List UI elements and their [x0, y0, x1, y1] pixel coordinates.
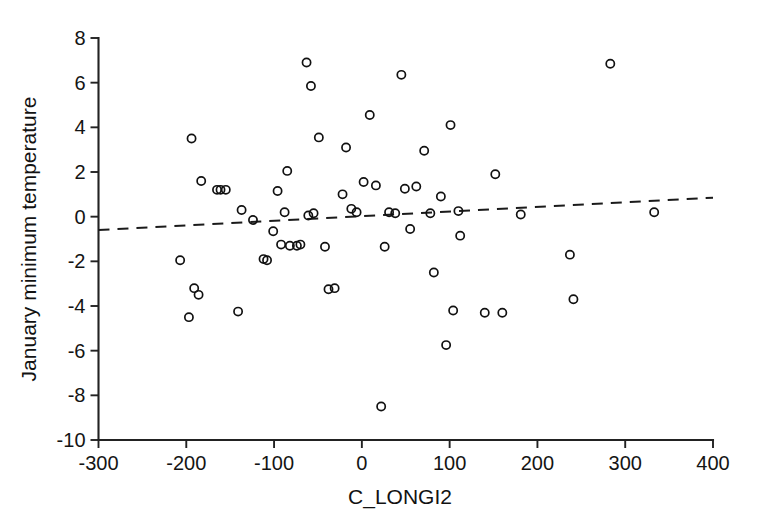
y-tick-label: -6	[68, 340, 86, 362]
data-point-marker	[222, 186, 230, 194]
scatter-plot-figure: -300-200-1000100200300400 -10-8-6-4-2024…	[0, 0, 762, 529]
data-points	[176, 58, 658, 410]
x-tick-label: 300	[609, 452, 642, 474]
data-point-marker	[650, 208, 658, 216]
data-point-marker	[420, 147, 428, 155]
y-tick-label: 8	[74, 27, 85, 49]
y-tick-label: -2	[68, 250, 86, 272]
x-tick-label: -100	[254, 452, 294, 474]
data-point-marker	[237, 206, 245, 214]
data-point-marker	[456, 232, 464, 240]
data-point-marker	[498, 309, 506, 317]
y-tick-label: -4	[68, 295, 86, 317]
x-tick-label: -300	[78, 452, 118, 474]
data-point-marker	[187, 134, 195, 142]
plot-canvas: -300-200-1000100200300400 -10-8-6-4-2024…	[0, 0, 762, 529]
data-point-marker	[281, 208, 289, 216]
data-point-marker	[194, 291, 202, 299]
data-point-marker	[315, 133, 323, 141]
x-tick-label: 0	[356, 452, 367, 474]
y-tick-label: -8	[68, 384, 86, 406]
data-point-marker	[481, 309, 489, 317]
y-tick-label: 4	[74, 116, 85, 138]
data-point-marker	[269, 227, 277, 235]
data-point-marker	[412, 182, 420, 190]
data-point-marker	[321, 243, 329, 251]
data-point-marker	[372, 181, 380, 189]
data-point-marker	[338, 190, 346, 198]
data-point-marker	[566, 251, 574, 259]
x-tick-label: -200	[166, 452, 206, 474]
x-tick-labels: -300-200-1000100200300400	[78, 452, 729, 474]
y-tick-label: -10	[57, 429, 86, 451]
data-point-marker	[366, 111, 374, 119]
data-point-marker	[437, 192, 445, 200]
data-point-marker	[491, 170, 499, 178]
data-point-marker	[569, 295, 577, 303]
data-point-marker	[381, 243, 389, 251]
y-tick-label: 0	[74, 206, 85, 228]
data-point-marker	[307, 82, 315, 90]
data-point-marker	[277, 240, 285, 248]
x-tick-label: 200	[521, 452, 554, 474]
data-point-marker	[302, 58, 310, 66]
data-point-marker	[176, 256, 184, 264]
trend-line	[99, 198, 714, 230]
data-point-marker	[406, 225, 414, 233]
data-point-marker	[442, 341, 450, 349]
y-axis-title: January minimum temperature	[17, 97, 40, 382]
tick-marks	[91, 38, 714, 448]
data-point-marker	[449, 306, 457, 314]
data-point-marker	[377, 402, 385, 410]
x-tick-label: 100	[433, 452, 466, 474]
data-point-marker	[517, 210, 525, 218]
data-point-marker	[606, 60, 614, 68]
y-tick-label: 6	[74, 72, 85, 94]
regression-trend-line	[99, 198, 714, 230]
data-point-marker	[397, 71, 405, 79]
x-axis-title: C_LONGI2	[348, 485, 452, 509]
y-tick-label: 2	[74, 161, 85, 183]
axis-group	[99, 38, 714, 440]
data-point-marker	[430, 268, 438, 276]
data-point-marker	[197, 177, 205, 185]
data-point-marker	[185, 313, 193, 321]
data-point-marker	[234, 307, 242, 315]
x-tick-label: 400	[696, 452, 729, 474]
data-point-marker	[283, 167, 291, 175]
data-point-marker	[360, 178, 368, 186]
data-point-marker	[273, 187, 281, 195]
data-point-marker	[342, 143, 350, 151]
data-point-marker	[401, 185, 409, 193]
data-point-marker	[446, 121, 454, 129]
y-tick-labels: -10-8-6-4-202468	[57, 27, 86, 451]
